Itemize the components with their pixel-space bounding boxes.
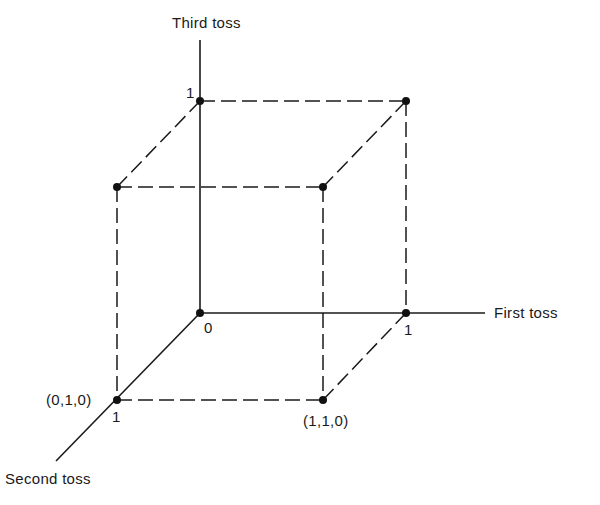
cube-diagram: Third toss 1 First toss 1 0 (0,1,0) 1 (1… — [0, 0, 600, 505]
vertex-110-label: (1,1,0) — [303, 412, 348, 429]
origin-label: 0 — [204, 319, 213, 336]
vertex-001 — [196, 97, 204, 105]
vertex-101 — [402, 97, 410, 105]
second-toss-label: Second toss — [5, 470, 91, 487]
first-toss-label: First toss — [494, 304, 558, 321]
third-toss-label: Third toss — [172, 14, 241, 31]
second-toss-axis — [56, 313, 200, 461]
vertex-100 — [402, 309, 410, 317]
edge-101-111 — [323, 101, 406, 187]
first-toss-tick: 1 — [404, 321, 413, 338]
vertex-010 — [113, 396, 121, 404]
vertex-111 — [319, 183, 327, 191]
cube-drawing — [0, 0, 600, 505]
edge-100-110 — [323, 313, 406, 400]
vertex-000 — [196, 309, 204, 317]
second-toss-tick: 1 — [112, 408, 121, 425]
vertex-011 — [113, 183, 121, 191]
vertex-110 — [319, 396, 327, 404]
vertex-010-label: (0,1,0) — [46, 391, 91, 408]
third-toss-tick: 1 — [186, 84, 195, 101]
edge-001-011 — [117, 101, 200, 187]
